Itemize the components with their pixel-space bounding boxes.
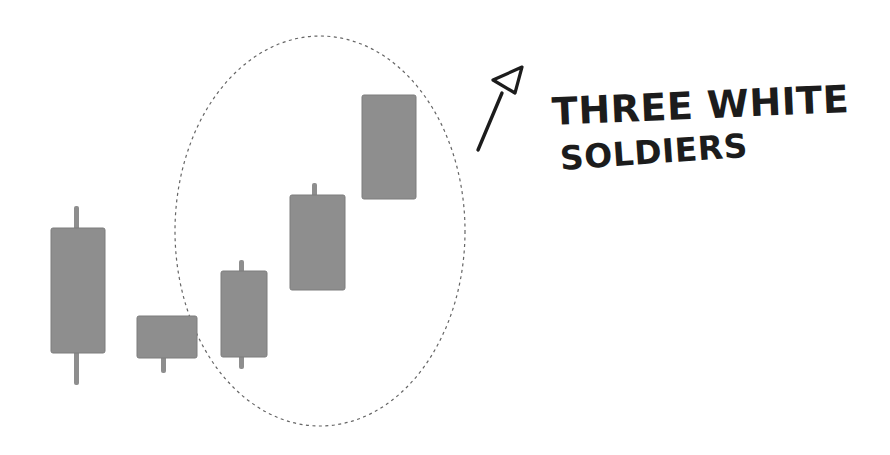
annotation-arrow-head [493, 67, 522, 93]
candle-4-body [290, 195, 345, 290]
candle-1-lower-wick [74, 351, 79, 385]
annotation-arrow-shaft [478, 93, 502, 150]
candle-1-body [51, 228, 105, 353]
candle-2-body [137, 316, 197, 358]
candle-2-lower-wick [161, 356, 166, 373]
diagram-canvas: THREE WHITE SOLDIERS [0, 0, 890, 455]
candle-5-body [362, 95, 416, 199]
candle-1-upper-wick [74, 206, 79, 230]
candle-3-body [221, 271, 267, 357]
candlestick-sketch [0, 0, 890, 455]
